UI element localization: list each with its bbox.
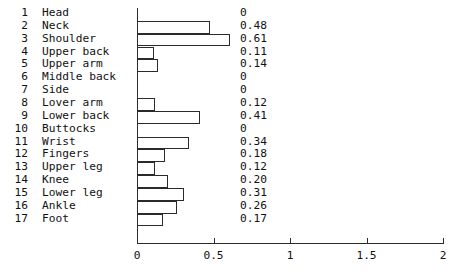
x-axis-tick-label: 1 <box>287 249 294 262</box>
bar <box>137 162 155 175</box>
bar <box>137 149 165 162</box>
x-axis-tick-label: 2 <box>440 249 447 262</box>
bar <box>137 21 210 34</box>
bar <box>137 137 189 150</box>
x-axis-tick-label: 0.5 <box>203 249 223 262</box>
bar <box>137 47 154 60</box>
bar <box>137 201 177 214</box>
bar <box>137 175 168 188</box>
x-axis-tick-label: 1.5 <box>356 249 376 262</box>
x-axis-tick <box>137 238 138 244</box>
x-axis-tick-label: 0 <box>134 249 141 262</box>
chart-page: 1Head2Neck3Shoulder4Upper back5Upper arm… <box>0 0 455 275</box>
x-axis-tick <box>367 238 368 244</box>
bar <box>137 98 155 111</box>
x-axis-tick <box>290 238 291 244</box>
bar <box>137 214 163 227</box>
bar <box>137 188 184 201</box>
plot-area: 00.511.52 <box>0 0 455 275</box>
x-axis-tick <box>443 238 444 244</box>
bar <box>137 34 230 47</box>
x-axis-tick <box>214 238 215 244</box>
bar <box>137 59 158 72</box>
bar <box>137 111 200 124</box>
